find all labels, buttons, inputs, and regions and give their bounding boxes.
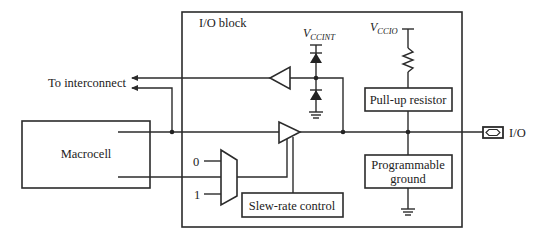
macrocell-label: Macrocell — [61, 147, 112, 161]
programmable-ground-label-1: Programmable — [371, 158, 445, 172]
programmable-ground-label-2: ground — [390, 172, 426, 186]
io-pad-icon — [483, 127, 503, 138]
io-block-diagram: I/O block Macrocell To interconnect VCCI… — [0, 0, 544, 238]
io-pin-label: I/O — [509, 126, 526, 140]
multiplexer-icon — [221, 150, 237, 205]
pull-up-resistor-label: Pull-up resistor — [370, 93, 448, 107]
mux-input-0-label: 0 — [193, 155, 199, 169]
io-block-label: I/O block — [199, 16, 247, 30]
to-interconnect-label: To interconnect — [48, 76, 126, 90]
slew-rate-control-label: Slew-rate control — [249, 199, 336, 213]
mux-input-1-label: 1 — [194, 188, 200, 202]
junction-dot — [170, 130, 175, 135]
